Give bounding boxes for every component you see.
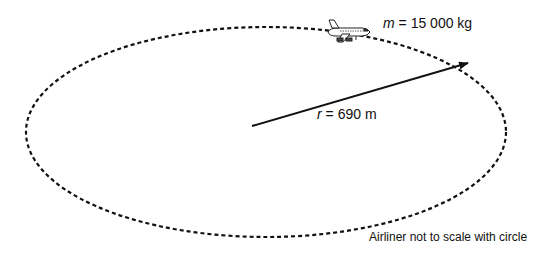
circular-path bbox=[26, 27, 506, 237]
mass-symbol: m bbox=[383, 15, 395, 31]
scale-note: Airliner not to scale with circle bbox=[369, 230, 527, 244]
mass-unit: kg bbox=[453, 15, 472, 31]
radius-value: 690 bbox=[338, 106, 361, 122]
airplane-icon bbox=[328, 20, 370, 42]
diagram-canvas bbox=[0, 0, 534, 266]
radius-equals: = bbox=[322, 106, 338, 122]
radius-label: r = 690 m bbox=[317, 106, 377, 122]
mass-equals: = bbox=[395, 15, 411, 31]
mass-value: 15 000 bbox=[411, 15, 454, 31]
radius-unit: m bbox=[361, 106, 377, 122]
mass-label: m = 15 000 kg bbox=[383, 15, 472, 31]
